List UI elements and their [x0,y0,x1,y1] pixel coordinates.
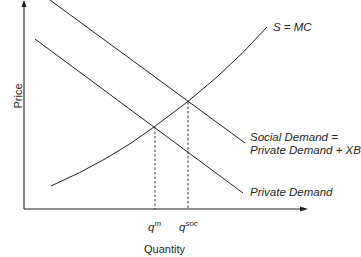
y-axis-arrow-icon [22,0,27,7]
supply-label: S = MC [273,21,312,34]
social-demand-label-line2: Private Demand + XB [250,144,361,157]
x-axis-arrow-icon [300,207,308,212]
qsoc-tick-label: qsoc [179,217,198,234]
social-demand-label-line1: Social Demand = [250,131,338,144]
supply-curve [51,27,267,186]
private-demand-label: Private Demand [250,186,332,199]
axes [24,3,305,209]
private-demand-line [35,39,243,193]
qm-tick-label: qm [148,217,161,234]
x-axis-label: Quantity [144,243,185,256]
y-axis-label: Price [12,76,24,116]
